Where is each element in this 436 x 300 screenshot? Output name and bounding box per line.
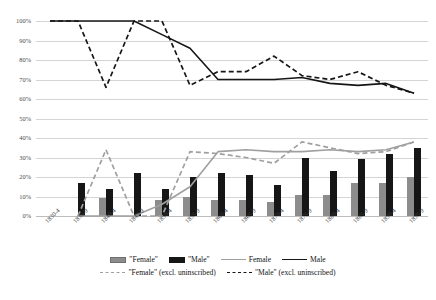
legend-item[interactable]: Male	[282, 256, 326, 264]
y-axis-tick-label: 60%	[19, 96, 31, 102]
legend-item-label: "Male" (excl. uninscribed)	[255, 269, 336, 277]
y-axis: 0%10%20%30%40%50%60%70%80%90%100%	[0, 0, 34, 216]
y-axis-tick-label: 90%	[19, 37, 31, 43]
legend-item-label: Male	[310, 256, 326, 264]
legend-row-1: "Female""Male"FemaleMale	[110, 256, 325, 264]
legend-swatch-female-bar	[110, 257, 126, 263]
legend-row-2: "Female" (excl. uninscribed)"Male" (excl…	[100, 269, 335, 277]
y-axis-tick-label: 20%	[19, 174, 31, 180]
line-series	[50, 21, 414, 93]
legend-item[interactable]: "Female"	[110, 256, 158, 264]
legend-swatch-male-line	[282, 259, 307, 260]
y-axis-tick-label: 0%	[22, 213, 31, 219]
legend-item[interactable]: "Female" (excl. uninscribed)	[100, 269, 215, 277]
y-axis-tick-label: 100%	[16, 18, 31, 24]
legend-item-label: Female	[249, 256, 271, 264]
y-axis-tick-label: 30%	[19, 154, 31, 160]
y-axis-tick-label: 70%	[19, 76, 31, 82]
plot-area	[36, 21, 428, 216]
chart-legend: "Female""Male"FemaleMale "Female" (excl.…	[0, 256, 436, 276]
y-axis-tick-label: 50%	[19, 115, 31, 121]
legend-swatch-male-bar	[169, 257, 185, 263]
legend-swatch-male-dashed	[227, 272, 252, 273]
chart-container: 0%10%20%30%40%50%60%70%80%90%100% 1830-4…	[0, 0, 436, 300]
y-axis-tick-label: 10%	[19, 193, 31, 199]
legend-item[interactable]: "Male"	[169, 256, 210, 264]
line-series	[78, 142, 414, 216]
line-series-layer	[36, 21, 428, 216]
legend-swatch-female-line	[221, 259, 246, 260]
legend-swatch-female-dashed	[100, 272, 125, 273]
legend-item-label: "Female" (excl. uninscribed)	[128, 269, 215, 277]
legend-item-label: "Female"	[129, 256, 158, 264]
y-axis-tick-label: 40%	[19, 135, 31, 141]
line-series	[50, 21, 414, 93]
legend-item-label: "Male"	[188, 256, 210, 264]
y-axis-tick-label: 80%	[19, 57, 31, 63]
legend-item[interactable]: "Male" (excl. uninscribed)	[227, 269, 336, 277]
legend-item[interactable]: Female	[221, 256, 271, 264]
